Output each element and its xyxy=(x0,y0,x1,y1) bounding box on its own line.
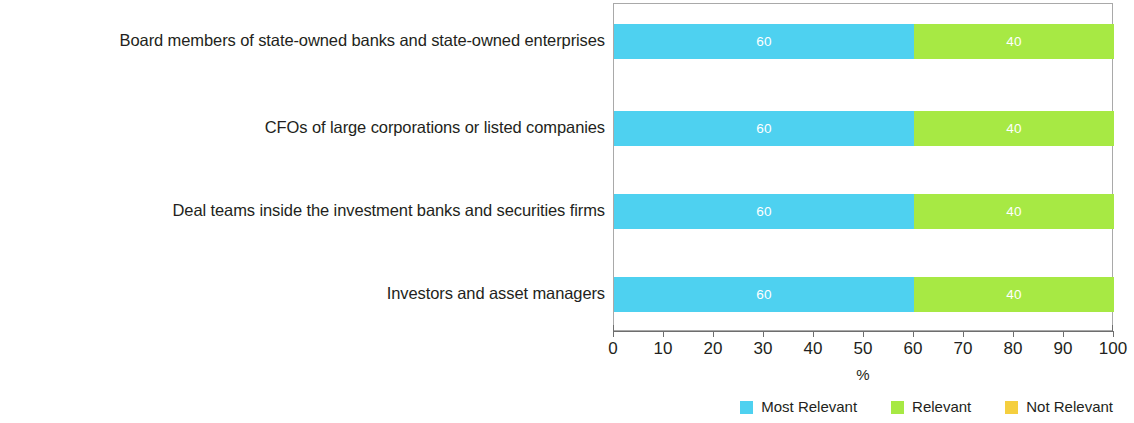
bar-segment: 60 xyxy=(614,24,914,59)
bar-segment: 40 xyxy=(914,194,1114,229)
x-axis-tick-label: 40 xyxy=(804,339,823,359)
legend-item[interactable]: Most Relevant xyxy=(740,399,857,415)
x-axis-tick-label: 100 xyxy=(1099,339,1127,359)
plot-area: 6040604060406040 xyxy=(613,3,1113,331)
bar-value-label: 60 xyxy=(756,288,771,302)
bar-value-label: 40 xyxy=(1006,205,1021,219)
chart-legend: Most RelevantRelevantNot Relevant xyxy=(613,399,1113,415)
legend-label: Relevant xyxy=(912,399,971,415)
x-axis-tick-label: 60 xyxy=(904,339,923,359)
bar-value-label: 60 xyxy=(756,205,771,219)
bar-segment: 60 xyxy=(614,277,914,312)
bar-value-label: 40 xyxy=(1006,35,1021,49)
legend-swatch-icon xyxy=(891,401,904,414)
bar-row: 6040 xyxy=(614,24,1114,59)
x-axis-tick xyxy=(713,331,714,337)
bar-segment: 40 xyxy=(914,277,1114,312)
category-label: Deal teams inside the investment banks a… xyxy=(0,201,605,219)
x-axis-title: % xyxy=(613,366,1113,383)
x-axis-tick-label: 20 xyxy=(704,339,723,359)
x-axis-tick xyxy=(613,331,614,337)
x-axis-tick-label: 50 xyxy=(854,339,873,359)
x-axis-tick xyxy=(1063,331,1064,337)
bar-segment: 60 xyxy=(614,111,914,146)
x-axis-tick xyxy=(1113,331,1114,337)
x-axis-tick-label: 10 xyxy=(654,339,673,359)
x-axis-tick-label: 0 xyxy=(608,339,617,359)
bar-row: 6040 xyxy=(614,111,1114,146)
category-label: Investors and asset managers xyxy=(0,284,605,302)
bar-row: 6040 xyxy=(614,277,1114,312)
category-axis-labels: Board members of state-owned banks and s… xyxy=(0,0,605,335)
legend-label: Not Relevant xyxy=(1026,399,1113,415)
bar-segment: 40 xyxy=(914,24,1114,59)
bar-value-label: 60 xyxy=(756,35,771,49)
legend-swatch-icon xyxy=(1005,401,1018,414)
bar-row: 6040 xyxy=(614,194,1114,229)
bar-segment: 40 xyxy=(914,111,1114,146)
x-axis-tick xyxy=(813,331,814,337)
x-axis-tick xyxy=(963,331,964,337)
x-axis-tick xyxy=(1013,331,1014,337)
legend-item[interactable]: Relevant xyxy=(891,399,971,415)
bar-segment: 60 xyxy=(614,194,914,229)
x-axis-tick xyxy=(763,331,764,337)
x-axis-tick-label: 70 xyxy=(954,339,973,359)
legend-item[interactable]: Not Relevant xyxy=(1005,399,1113,415)
x-axis-tick xyxy=(863,331,864,337)
legend-swatch-icon xyxy=(740,401,753,414)
x-axis-tick-label: 90 xyxy=(1054,339,1073,359)
bar-value-label: 40 xyxy=(1006,288,1021,302)
category-label: Board members of state-owned banks and s… xyxy=(0,31,605,49)
x-axis-tick-label: 80 xyxy=(1004,339,1023,359)
x-axis-tick xyxy=(663,331,664,337)
x-axis-tick-label: 30 xyxy=(754,339,773,359)
category-label: CFOs of large corporations or listed com… xyxy=(0,118,605,136)
bar-value-label: 40 xyxy=(1006,122,1021,136)
bar-value-label: 60 xyxy=(756,122,771,136)
horizontal-stacked-bar-chart: Board members of state-owned banks and s… xyxy=(0,0,1134,423)
x-axis-tick xyxy=(913,331,914,337)
legend-label: Most Relevant xyxy=(761,399,857,415)
